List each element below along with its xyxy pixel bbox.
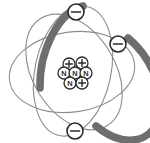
atom-svg-canvas: N N N N [0,0,150,143]
diagonal-orbit-highlight [96,38,150,140]
neutron-4: N [64,77,76,89]
neutron-4-label: N [67,79,72,88]
nucleus-cluster: N N N N [58,57,92,89]
neutron-1-label: N [61,69,66,78]
electron-top [68,4,84,20]
proton-3 [76,77,88,89]
neutron-3-label: N [83,69,88,78]
electron-right [110,36,126,52]
atom-diagram: N N N N [0,0,150,143]
electron-bottom [67,123,83,139]
neutron-2-label: N [72,69,77,78]
